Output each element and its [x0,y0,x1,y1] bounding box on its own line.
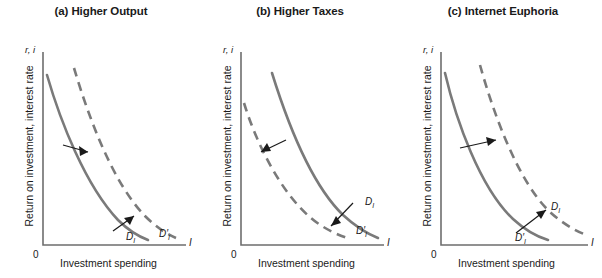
panel-b-x-axis-var: I [387,237,390,248]
panel-c-curve-label-original: DI [551,201,560,214]
panel-c-label-d-shifted: D′ [515,232,524,243]
panel-b-label-d-original-sub: I [372,202,374,209]
panel-b-curve-label-shifted: D′I [356,225,367,238]
panel-c-x-axis-label: Investment spending [458,257,555,269]
panel-a-y-axis-var: r, i [25,44,35,55]
panel-a-higher-output: (a) Higher Output Return on investment, … [0,0,200,278]
panel-b-curve-dashed [244,103,350,239]
panel-b-origin-label: 0 [231,249,237,260]
panel-b-label-d-shifted-sub: I [365,231,367,238]
panel-a-y-axis-label: Return on investment, interest rate [23,51,35,241]
panel-b-x-axis-label: Investment spending [258,257,355,269]
panel-a-label-d-shifted: D′ [159,228,168,239]
panel-a-curve-label-original: DI [126,231,135,244]
panel-a-curve-label-shifted: D′I [159,228,170,241]
panel-b-y-axis-label: Return on investment, interest rate [221,51,233,241]
panel-b-curve-label-original: DI [365,196,374,209]
panel-c-axes [441,52,588,245]
panel-c-label-d-original-sub: I [558,207,560,214]
panel-a-label-d-original-sub: I [133,237,135,244]
panel-b-shift-arrow-upper [261,140,286,152]
panel-a-curve-dashed [74,68,176,238]
panel-c-curve-dashed [480,65,584,234]
panel-c-x-axis-var: I [591,237,594,248]
panel-c-curve-label-shifted: D′I [515,232,526,245]
panel-b-higher-taxes: (b) Higher Taxes Return on investment, i… [198,0,398,278]
panel-a-curve-solid [47,75,148,240]
panel-b-y-axis-var: r, i [223,44,233,55]
panel-a-origin-label: 0 [33,249,39,260]
panel-c-y-axis-label: Return on investment, interest rate [421,51,433,241]
panel-a-x-axis-label: Investment spending [60,257,157,269]
panel-c-curve-solid [445,73,548,240]
panel-c-label-d-shifted-sub: I [524,238,526,245]
panel-a-label-d-shifted-sub: I [168,234,170,241]
panel-c-origin-label: 0 [431,249,437,260]
panel-a-x-axis-var: I [189,237,192,248]
panel-c-internet-euphoria: (c) Internet Euphoria Return on investme… [398,0,598,278]
panel-b-label-d-shifted: D′ [356,225,365,236]
panel-c-y-axis-var: r, i [423,44,433,55]
investment-demand-shift-figure: (a) Higher Output Return on investment, … [0,0,602,278]
panel-c-shift-arrow-lower [516,210,546,233]
panel-b-curve-solid [272,73,378,238]
